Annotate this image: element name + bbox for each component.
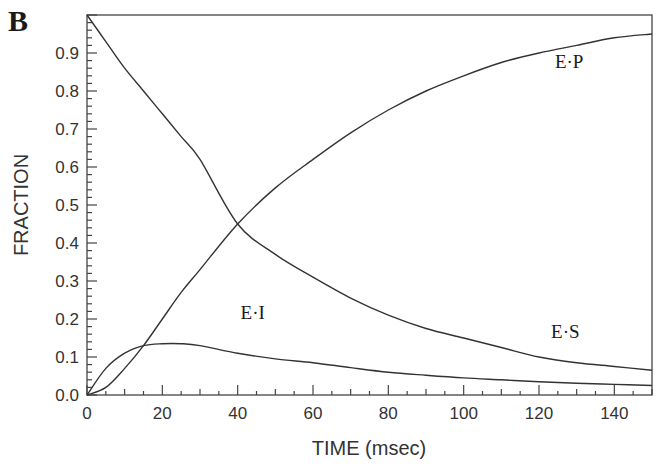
y-tick-label: 0.2 (55, 310, 79, 329)
x-tick-label: 0 (82, 404, 91, 423)
y-tick-label: 0.5 (55, 196, 79, 215)
curve-label-ei: E·I (241, 302, 265, 323)
x-tick-labels: 020406080100120140 (82, 404, 628, 423)
curve-label-es: E·S (551, 321, 580, 342)
curve-ei (87, 343, 652, 395)
x-tick-label: 80 (379, 404, 398, 423)
y-axis-title: FRACTION (10, 154, 32, 256)
x-tick-label: 60 (304, 404, 323, 423)
curve-labels: E·SE·PE·I (241, 51, 584, 342)
x-tick-label: 20 (153, 404, 172, 423)
y-tick-label: 0.0 (55, 386, 79, 405)
y-tick-label: 0.1 (55, 348, 79, 367)
y-tick-label: 0.3 (55, 272, 79, 291)
line-chart: 020406080100120140 0.00.10.20.30.40.50.6… (0, 0, 658, 467)
y-tick-label: 0.7 (55, 120, 79, 139)
y-tick-label: 0.4 (55, 234, 79, 253)
y-tick-label: 0.6 (55, 158, 79, 177)
x-tick-label: 100 (449, 404, 477, 423)
x-axis-title: TIME (msec) (312, 437, 426, 459)
curve-label-ep: E·P (555, 51, 584, 72)
x-tick-label: 140 (600, 404, 628, 423)
y-tick-label: 0.9 (55, 44, 79, 63)
y-tick-labels: 0.00.10.20.30.40.50.60.70.80.9 (55, 44, 79, 405)
x-tick-label: 40 (228, 404, 247, 423)
x-tick-label: 120 (525, 404, 553, 423)
y-tick-label: 0.8 (55, 82, 79, 101)
